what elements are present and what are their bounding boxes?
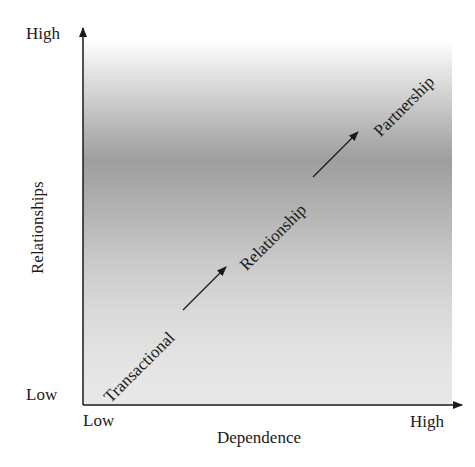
axes-and-arrows: [0, 0, 475, 467]
arrow-transactional-to-relationship: [183, 267, 226, 310]
y-axis-low-label: Low: [26, 385, 57, 405]
x-axis-title: Dependence: [217, 428, 301, 448]
arrow-relationship-to-partnership: [313, 132, 358, 177]
y-axis-high-label: High: [26, 24, 60, 44]
y-axis-title: Relationships: [28, 181, 48, 274]
x-axis-low-label: Low: [83, 411, 114, 431]
x-axis-high-label: High: [410, 412, 444, 432]
